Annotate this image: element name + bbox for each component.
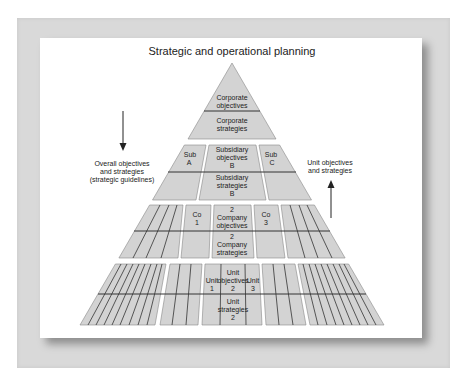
corporate-strategies-label: Corporatestrategies <box>216 117 247 133</box>
diagram-title: Strategic and operational planning <box>149 45 316 57</box>
pyramid-diagram: Strategic and operational planning <box>0 0 469 390</box>
right-note-label: Unit objectivesand strategies <box>307 159 353 175</box>
corporate-objectives-label: Corporateobjectives <box>216 94 248 110</box>
down-arrow-icon <box>120 111 127 151</box>
up-arrow-icon <box>328 180 335 218</box>
left-note-label: Overall objectivesand strategies(strateg… <box>90 160 155 184</box>
